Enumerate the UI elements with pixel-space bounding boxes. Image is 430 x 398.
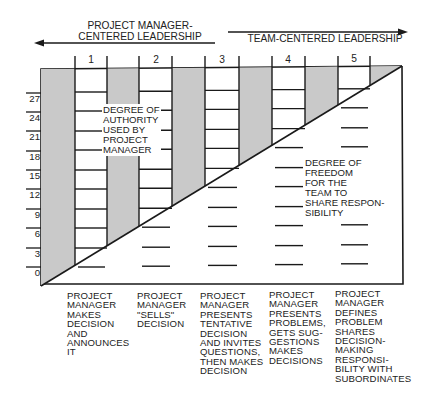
freedom-region-label: DEGREE OF FREEDOM FOR THE TEAM TO SHARE … — [304, 157, 385, 219]
y-axis-label: 3 — [26, 249, 40, 259]
y-axis-label: 9 — [26, 210, 40, 220]
y-axis-label: 24 — [26, 113, 40, 123]
authority-band — [305, 67, 338, 125]
y-axis-label: 21 — [26, 132, 40, 142]
y-axis-label: 0 — [26, 268, 40, 278]
column-number-5: 5 — [344, 53, 364, 64]
team-centered-label: TEAM-CENTERED LEADERSHIP — [245, 33, 405, 44]
manager-centered-label: PROJECT MANAGER- CENTERED LEADERSHIP — [70, 20, 210, 42]
y-axis-label: 15 — [26, 171, 40, 181]
column-number-2: 2 — [146, 54, 166, 65]
caption-column-5: PROJECT MANAGER DEFINES PROBLEM SHARES D… — [335, 289, 411, 383]
authority-band — [107, 68, 139, 246]
caption-column-2: PROJECT MANAGER "SELLS" DECISION — [137, 291, 186, 329]
left-arrow-head-icon — [34, 40, 44, 47]
y-axis-label: 6 — [26, 229, 40, 239]
caption-column-3: PROJECT MANAGER PRESENTS TENTATIVE DECIS… — [200, 291, 263, 376]
column-number-1: 1 — [81, 54, 101, 65]
authority-band — [41, 69, 75, 286]
y-axis-label: 18 — [26, 152, 40, 162]
caption-column-4: PROJECT MANAGER PRESENTS PROBLEMS, GETS … — [269, 290, 326, 365]
leadership-continuum-diagram: PROJECT MANAGER- CENTERED LEADERSHIP TEA… — [0, 0, 430, 398]
authority-band — [172, 68, 205, 206]
authority-region-label: DEGREE OF AUTHORITY USED BY PROJECT MANA… — [102, 104, 161, 156]
authority-band — [239, 67, 272, 165]
column-number-3: 3 — [212, 54, 232, 65]
column-number-4: 4 — [278, 54, 298, 65]
caption-column-1: PROJECT MANAGER MAKES DECISION AND ANNOU… — [67, 291, 129, 357]
y-axis-label: 27 — [26, 94, 40, 104]
y-axis-label: 12 — [26, 190, 40, 200]
